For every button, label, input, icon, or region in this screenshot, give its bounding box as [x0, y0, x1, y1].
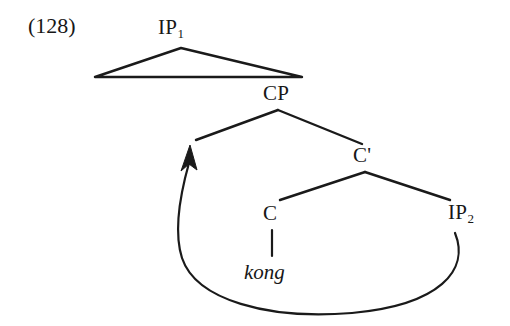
movement-arrow-path — [178, 163, 458, 314]
ip1-constituent-triangle — [95, 48, 302, 77]
branch-cbar-to-c — [280, 172, 365, 200]
node-label-cp: CP — [263, 83, 289, 104]
node-label-c: C — [263, 203, 277, 224]
node-label-ip2-subscript: 2 — [468, 211, 475, 226]
branch-cbar-to-ip2 — [365, 172, 450, 200]
node-label-ip2-text: IP — [448, 200, 467, 224]
syntax-tree-figure: (128) IP1 CP C' C IP2 kong — [0, 0, 510, 326]
node-label-ip1-text: IP — [158, 15, 177, 39]
branch-cp-to-spec — [196, 110, 278, 140]
branch-cp-to-cbar — [278, 110, 362, 144]
node-label-cp-text: CP — [263, 81, 289, 105]
node-label-ip1: IP1 — [158, 17, 184, 38]
node-label-c-text: C — [263, 201, 277, 225]
terminal-label-kong: kong — [244, 262, 285, 283]
node-label-ip1-subscript: 1 — [178, 26, 185, 41]
node-label-cbar-text: C' — [353, 143, 371, 167]
node-label-ip2: IP2 — [448, 202, 474, 223]
node-label-cbar: C' — [353, 145, 371, 166]
